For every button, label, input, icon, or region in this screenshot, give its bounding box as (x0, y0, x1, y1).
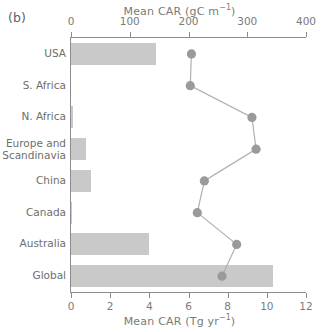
figure-panel-b: (b) Mean CAR (gC m−1) Mean CAR (Tg yr−1)… (0, 0, 321, 332)
category-label: USA (0, 48, 66, 60)
bottom-axis-tick (110, 293, 111, 298)
bottom-axis-title-tail: ) (231, 315, 236, 328)
bottom-axis-tick-label: 6 (185, 300, 192, 312)
top-axis-tick-label: 0 (68, 15, 75, 27)
data-point-marker (200, 176, 209, 185)
bottom-axis-tick (71, 293, 72, 298)
bottom-axis-tick (267, 293, 268, 298)
top-axis-tick-label: 200 (178, 15, 198, 27)
data-point-marker (251, 145, 260, 154)
data-point-marker (186, 81, 195, 90)
top-axis-tick (71, 32, 72, 37)
bottom-axis-tick-label: 4 (146, 300, 153, 312)
bottom-axis-tick-label: 8 (224, 300, 231, 312)
top-axis-title: Mean CAR (gC m−1) (0, 3, 321, 18)
category-label: Canada (0, 207, 66, 219)
bottom-axis-tick (189, 293, 190, 298)
category-label: China (0, 175, 66, 187)
line-series-layer (71, 38, 306, 292)
bottom-axis-tick-label: 2 (107, 300, 114, 312)
data-point-marker (232, 240, 241, 249)
top-axis-title-tail: ) (231, 5, 236, 18)
category-label: Australia (0, 239, 66, 251)
bottom-axis-title-exponent: −1 (219, 313, 231, 322)
series-line (190, 54, 256, 276)
plot-area: 0100200300400024681012 (71, 38, 306, 292)
category-label: Global (0, 270, 66, 282)
category-label: S. Africa (0, 80, 66, 92)
top-axis-title-exponent: −1 (219, 3, 231, 12)
category-axis: USAS. AfricaN. AfricaEurope and Scandina… (0, 38, 66, 292)
bottom-axis-tick-label: 0 (68, 300, 75, 312)
category-label: N. Africa (0, 112, 66, 124)
bottom-axis-title: Mean CAR (Tg yr−1) (0, 313, 321, 328)
data-point-marker (193, 208, 202, 217)
category-label: Europe and Scandinavia (0, 138, 66, 161)
bottom-axis-tick-label: 12 (299, 300, 312, 312)
bottom-axis-tick (149, 293, 150, 298)
top-axis-tick (130, 32, 131, 37)
data-point-marker (187, 49, 196, 58)
data-point-marker (247, 113, 256, 122)
top-axis-tick-label: 300 (237, 15, 257, 27)
top-axis-tick (306, 32, 307, 37)
top-axis-tick-label: 100 (120, 15, 140, 27)
top-axis-tick (247, 32, 248, 37)
bottom-axis-tick (306, 293, 307, 298)
data-point-marker (217, 272, 226, 281)
bottom-axis-tick-label: 10 (260, 300, 273, 312)
bottom-axis-title-main: Mean CAR (Tg yr (124, 315, 219, 328)
top-axis-tick (189, 32, 190, 37)
bottom-axis-tick (228, 293, 229, 298)
top-axis-tick-label: 400 (296, 15, 316, 27)
